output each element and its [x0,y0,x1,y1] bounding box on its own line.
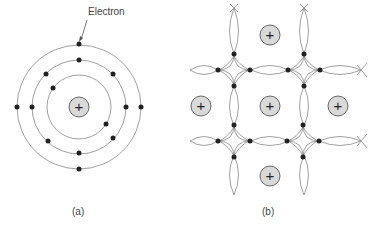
electron-dot [232,123,237,128]
positive-ion: + [260,96,280,116]
electron-dot [77,151,82,156]
electron-dot [77,58,82,63]
lattice-panel-b: +++++ [190,4,367,195]
electron-dot [302,52,307,57]
plus-icon: + [334,97,343,114]
electron-dot [301,123,306,128]
electron-dot [285,139,290,144]
bond-tail [230,4,238,12]
plus-icon: + [75,98,84,115]
bond-lens [300,155,309,195]
electron-dot [77,42,82,47]
electron-dot [30,105,35,110]
plus-icon: + [266,26,275,43]
electron-dot [77,167,82,172]
bond-lens [190,66,218,75]
electron-dot [44,72,49,77]
electron-dot [216,139,221,144]
electron-dot [216,68,221,73]
bond-lens [300,86,309,126]
bond-tail [300,4,308,12]
electron-dot [317,139,322,144]
bond-lens [251,137,289,146]
bond-lens [230,86,239,126]
electron-dot [15,105,20,110]
electron-label: Electron [88,6,125,17]
plus-icon: + [266,167,275,184]
electron-dot [248,139,253,144]
electron-dot [286,68,291,73]
nucleus: + [69,97,89,117]
bond-diamond [287,125,319,157]
plus-icon: + [266,97,275,114]
electron-dot [232,155,237,160]
electron-dot [104,122,109,127]
electron-dot [111,72,116,77]
bond-diamond [218,125,250,157]
bond-lens [300,8,309,54]
bond-lens [319,137,361,146]
electron-pointer-arrow [81,20,87,40]
electron-dot [111,136,116,141]
bond-lens [230,8,239,54]
positive-ion: + [191,96,211,116]
positive-ion: + [260,25,280,45]
bond-diamond [288,54,320,86]
bond-lens [319,66,361,75]
electron-dot [51,86,56,91]
arrow-head-icon [79,36,83,42]
bond-lens [251,66,289,75]
electron-dot [232,52,237,57]
bond-diamond [218,54,250,86]
electron-dot [301,155,306,160]
electron-dot [248,68,253,73]
electron-dot [302,84,307,89]
plus-icon: + [197,97,206,114]
electron-dot [318,68,323,73]
caption-b: (b) [262,206,274,217]
bond-lens [230,155,239,195]
bond-lens [190,137,218,146]
electron-dot [232,84,237,89]
positive-ion: + [260,166,280,186]
positive-ion: + [328,96,348,116]
atom-panel-a: + [15,42,144,172]
electron-dot [46,139,51,144]
electron-dot [124,105,129,110]
electron-dot [139,105,144,110]
caption-a: (a) [72,206,84,217]
atom-and-lattice-diagram: + +++++ Electron (a) (b) [0,0,381,233]
